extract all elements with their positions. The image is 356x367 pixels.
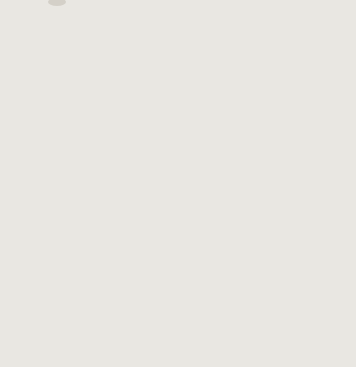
chart-canvas — [0, 0, 356, 367]
scanned-figure-page — [0, 0, 356, 367]
scan-smudge-artifact — [48, 0, 66, 6]
